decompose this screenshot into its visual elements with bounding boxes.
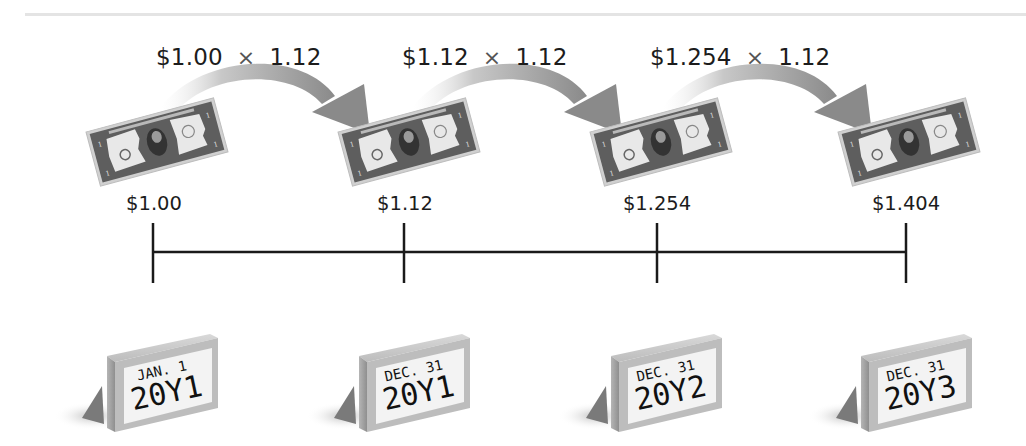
calendar-icon: DEC. 31 20Y2 (558, 334, 722, 432)
calendars: JAN. 1 20Y1 DEC. 31 20Y1 DEC. 31 20Y2 DE… (0, 0, 1026, 446)
calendar-icon: DEC. 31 20Y3 (808, 334, 972, 432)
calendar-icon: JAN. 1 20Y1 (54, 334, 218, 432)
calendar-icon: DEC. 31 20Y1 (306, 334, 470, 432)
